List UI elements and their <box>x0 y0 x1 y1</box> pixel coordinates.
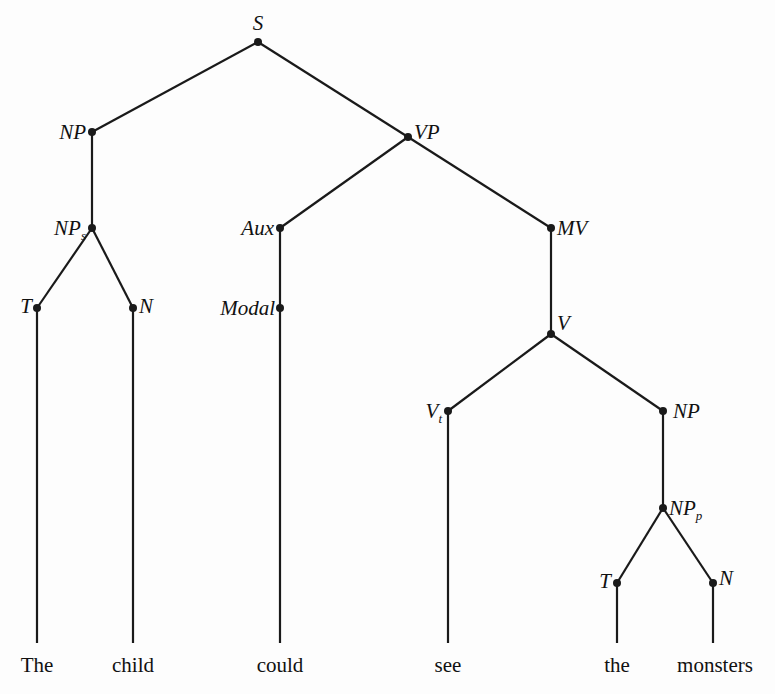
node-dot-n2 <box>709 579 717 587</box>
node-dot-mv <box>547 224 555 232</box>
node-dot-npp <box>659 504 667 512</box>
terminal-words: Thechildcouldseethemonsters <box>21 653 753 677</box>
word-the: the <box>604 653 630 677</box>
phrase-structure-tree: SNPVPNPsAuxMVTNModalVVtNPNPpTN Thechildc… <box>0 0 775 694</box>
node-dot-np2 <box>659 407 667 415</box>
word-could: could <box>257 653 304 677</box>
node-label-vt: Vt <box>426 399 443 426</box>
node-label-t1: T <box>20 294 33 318</box>
word-child: child <box>112 653 154 677</box>
node-label-np1: NP <box>58 120 86 144</box>
node-dot-vt <box>444 407 452 415</box>
edge-npp-t2 <box>617 508 663 583</box>
node-label-modal: Modal <box>219 296 275 320</box>
node-label-s: S <box>253 11 264 35</box>
node-label-aux: Aux <box>239 216 274 240</box>
node-label-n1: N <box>138 294 154 318</box>
node-label-np2: NP <box>672 399 700 423</box>
node-label-n2: N <box>718 566 734 590</box>
edge-nps-n1 <box>92 228 133 308</box>
edge-vp-mv <box>408 137 551 228</box>
node-label-v: V <box>557 311 572 335</box>
node-dot-nps <box>88 224 96 232</box>
node-label-t2: T <box>599 569 612 593</box>
edge-s-np1 <box>92 42 258 132</box>
node-dot-t2 <box>613 579 621 587</box>
node-dot-v <box>547 330 555 338</box>
node-label-npp: NPp <box>668 496 703 523</box>
node-dot-s <box>254 38 262 46</box>
node-label-nps: NPs <box>53 216 86 243</box>
node-dot-vp <box>404 133 412 141</box>
node-dot-t1 <box>33 304 41 312</box>
leaf-lines <box>37 308 713 643</box>
node-labels: SNPVPNPsAuxMVTNModalVVtNPNPpTN <box>20 11 734 593</box>
edge-v-np2 <box>551 334 663 411</box>
edge-v-vt <box>448 334 551 411</box>
node-label-mv: MV <box>556 216 589 240</box>
node-dot-np1 <box>88 128 96 136</box>
edge-vp-aux <box>280 137 408 228</box>
word-monsters: monsters <box>677 653 753 677</box>
node-label-vp: VP <box>414 120 440 144</box>
edge-s-vp <box>258 42 408 137</box>
word-the: The <box>21 653 54 677</box>
node-dots <box>33 38 717 587</box>
word-see: see <box>435 653 462 677</box>
node-dot-n1 <box>129 304 137 312</box>
node-dot-modal <box>276 304 284 312</box>
node-dot-aux <box>276 224 284 232</box>
